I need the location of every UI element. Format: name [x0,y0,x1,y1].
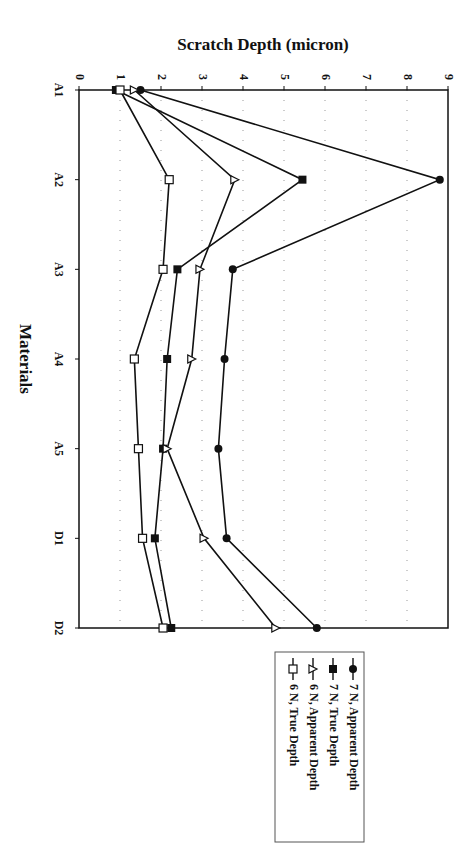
value-axis-title: Scratch Depth (micron) [177,35,349,54]
category-label: A4 [52,352,66,367]
category-label: A2 [52,172,66,187]
legend-item-label: 7 N, True Depth [327,684,341,767]
category-label: A1 [52,83,66,98]
tick-label: 9 [442,74,456,80]
legend-item-label: 7 N, Apparent Depth [347,684,361,791]
category-axis-labels: A1A2A3A4A5D1D2 [52,83,79,636]
tick-label: 1 [114,74,128,80]
category-label: A3 [52,262,66,277]
tick-label: 0 [73,74,87,80]
series-7-n-apparent-depth [137,86,444,632]
category-label: D1 [52,531,66,546]
series-6-n-apparent-depth [130,86,279,632]
tick-label: 8 [401,74,415,80]
category-axis-title: Materials [16,324,35,394]
category-label: D2 [52,621,66,636]
tick-label: 2 [155,74,169,80]
category-label: A5 [52,441,66,456]
tick-label: 7 [360,74,374,80]
chart: 0123456789 A1A2A3A4A5D1D2 Scratch Depth … [0,0,469,854]
tick-label: 4 [237,74,251,80]
legend-item-label: 6 N, True Depth [287,684,301,767]
tick-label: 6 [319,74,333,80]
tick-label: 5 [278,74,292,80]
legend-item-label: 6 N, Apparent Depth [307,684,321,791]
series-lines [112,86,444,632]
series-7-n-true-depth [112,86,307,632]
legend: 7 N, Apparent Depth7 N, True Depth6 N, A… [275,652,364,842]
tick-label: 3 [196,74,210,80]
grid-lines [120,90,407,628]
